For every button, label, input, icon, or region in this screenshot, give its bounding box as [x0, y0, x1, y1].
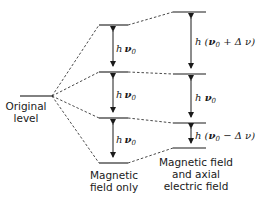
magnetic-electric-label-line2: and axial	[172, 168, 220, 180]
magnetic-electric-label-line3: electric field	[164, 180, 229, 192]
original-level-label-line1: Original	[5, 100, 46, 112]
magnetic-gap-label-3: hν0	[116, 134, 136, 147]
magnetic-electric-gap-label-3: h (ν0 − Δ ν)	[195, 130, 255, 143]
magnetic-label-line2: field only	[90, 181, 138, 193]
magnetic-gap-label-1: hν0	[116, 43, 136, 56]
magnetic-gap-label-2: hν0	[116, 89, 136, 102]
original-level-label-line2: level	[14, 112, 39, 124]
magnetic-electric-gap-label-2: h ν0	[195, 92, 217, 105]
magnetic-electric-label-line1: Magnetic field	[159, 156, 233, 168]
magnetic-electric-levels	[173, 12, 206, 148]
energy-level-diagram: hν0 hν0 hν0 h (ν0 + Δ ν) h ν0 h (ν0 − Δ …	[0, 0, 261, 200]
magnetic-label-line1: Magnetic	[90, 169, 138, 181]
magnetic-electric-gap-label-1: h (ν0 + Δ ν)	[195, 36, 255, 49]
origin-connectors	[52, 25, 99, 163]
